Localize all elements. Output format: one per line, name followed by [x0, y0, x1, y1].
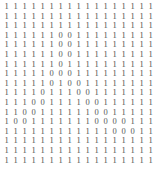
- matrix-cell: 1: [110, 156, 119, 166]
- matrix-cell: 1: [146, 156, 155, 166]
- matrix-cell: 1: [2, 156, 11, 166]
- matrix-cell: 1: [74, 156, 83, 166]
- matrix-cell: 1: [65, 156, 74, 166]
- matrix-cell: 1: [38, 156, 47, 166]
- matrix-cell: 1: [128, 156, 137, 166]
- matrix-cell: 1: [11, 156, 20, 166]
- matrix-cell: 1: [101, 156, 110, 166]
- binary-matrix-grid: 1111111111111111111111111111111111111111…: [2, 2, 156, 165]
- matrix-cell: 1: [92, 156, 101, 166]
- matrix-cell: 1: [119, 156, 128, 166]
- matrix-cell: 1: [137, 156, 146, 166]
- matrix-cell: 1: [29, 156, 38, 166]
- matrix-cell: 1: [83, 156, 92, 166]
- binary-matrix-panel: 1111111111111111111111111111111111111111…: [0, 0, 156, 175]
- matrix-cell: 1: [47, 156, 56, 166]
- matrix-cell: 1: [20, 156, 29, 166]
- matrix-cell: 1: [56, 156, 65, 166]
